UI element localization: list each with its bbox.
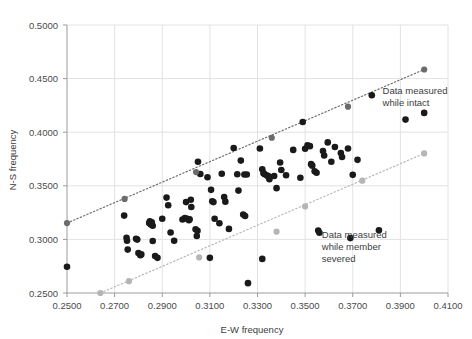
chart-background [0, 0, 472, 339]
chart-canvas: 0.25000.27000.29000.31000.33000.35000.37… [0, 0, 472, 339]
data-point [188, 196, 195, 203]
x-axis-tick-label: 0.4100 [433, 300, 462, 311]
data-point [299, 119, 306, 126]
data-point [245, 280, 252, 287]
y-axis-title: N-S frequency [7, 129, 18, 190]
annotation-label: while intact [382, 97, 430, 108]
y-axis-tick-label: 0.4000 [29, 127, 58, 138]
y-axis-tick-label: 0.2500 [29, 288, 58, 299]
data-point [210, 199, 217, 206]
x-axis-tick-label: 0.3900 [386, 300, 415, 311]
data-point [226, 226, 233, 233]
data-point [234, 171, 241, 178]
data-point [149, 238, 156, 245]
data-point [149, 222, 156, 229]
trend-line-marker [359, 178, 365, 184]
data-point [163, 194, 170, 201]
data-point [278, 167, 285, 174]
data-point [165, 202, 172, 209]
trend-line-marker [126, 278, 132, 284]
data-point [290, 147, 297, 154]
data-point [238, 157, 245, 164]
trend-line-marker [345, 104, 351, 110]
annotation-label: while member [321, 241, 381, 252]
x-axis-tick-label: 0.3100 [195, 300, 224, 311]
data-point [259, 256, 266, 263]
x-axis-tick-label: 0.2500 [52, 300, 81, 311]
data-point [273, 185, 280, 192]
data-point [195, 158, 202, 165]
data-point [321, 152, 328, 159]
x-axis-title: E-W frequency [221, 324, 284, 335]
data-point [171, 237, 178, 244]
data-point [242, 213, 249, 220]
y-axis-tick-label: 0.3000 [29, 234, 58, 245]
data-point [313, 169, 320, 176]
data-point [188, 204, 195, 211]
data-point [235, 187, 242, 194]
data-point [271, 173, 278, 180]
data-point [216, 220, 223, 227]
data-point [332, 144, 339, 151]
data-point [283, 172, 290, 179]
data-point [369, 92, 376, 99]
trend-line-marker [273, 229, 279, 235]
data-point [134, 236, 141, 243]
x-axis-tick-label: 0.3700 [338, 300, 367, 311]
y-axis-tick-label: 0.4500 [29, 73, 58, 84]
trend-line-marker [421, 66, 427, 72]
trend-line-marker [269, 135, 275, 141]
data-point [64, 263, 71, 270]
data-point [324, 139, 331, 146]
data-point [309, 162, 316, 169]
data-point [208, 187, 215, 194]
data-point [349, 172, 356, 179]
data-point [193, 233, 200, 240]
data-point [207, 255, 214, 262]
x-axis-tick-label: 0.2900 [148, 300, 177, 311]
data-point [124, 246, 131, 253]
annotation-label: severed [322, 253, 356, 264]
data-point [121, 212, 128, 219]
y-axis-tick-label: 0.5000 [29, 20, 58, 31]
y-axis-tick-label: 0.3500 [29, 180, 58, 191]
data-point [277, 159, 284, 166]
data-point [204, 174, 211, 181]
data-point [124, 237, 131, 244]
annotation-label: Data measured [383, 85, 448, 96]
x-axis-tick-labels: 0.25000.27000.29000.31000.33000.35000.37… [52, 300, 462, 311]
scatter-chart: 0.25000.27000.29000.31000.33000.35000.37… [0, 0, 472, 339]
data-point [354, 157, 361, 164]
data-point [230, 145, 237, 152]
x-axis-tick-label: 0.3500 [291, 300, 320, 311]
data-point [186, 216, 193, 223]
trend-line-marker [421, 150, 427, 156]
data-point [339, 154, 346, 161]
data-point [328, 158, 335, 165]
data-point [152, 253, 159, 260]
data-point [167, 229, 174, 236]
data-point [243, 171, 250, 178]
trend-line-marker [122, 196, 128, 202]
data-point [222, 198, 229, 205]
data-point [421, 110, 428, 117]
data-point [307, 143, 314, 150]
annotation-label: Data measured [322, 229, 387, 240]
trend-line-marker [196, 254, 202, 260]
data-point [218, 170, 225, 177]
data-point [159, 216, 166, 223]
trend-line-marker [302, 203, 308, 209]
data-point [257, 145, 264, 152]
annotation-marker [402, 116, 409, 123]
x-axis-tick-label: 0.3300 [243, 300, 272, 311]
trend-line-marker [193, 169, 199, 175]
trend-line-marker [64, 220, 70, 226]
data-point [138, 251, 145, 258]
data-point [345, 145, 352, 152]
x-axis-tick-label: 0.2700 [100, 300, 129, 311]
data-point [297, 174, 304, 181]
trend-line-marker [97, 290, 103, 296]
